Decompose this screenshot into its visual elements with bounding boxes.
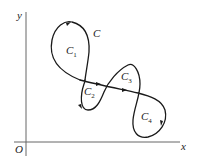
arrow-icon <box>66 22 71 26</box>
arrow-icon <box>122 88 127 92</box>
curve-label-c: C <box>93 27 101 39</box>
arrow-icon <box>78 104 82 109</box>
region-label-c1: C1 <box>66 44 77 59</box>
x-axis-label: x <box>180 140 186 152</box>
closed-curve-diagram: y x O C C1 C2 C3 <box>0 0 198 159</box>
y-axis-label: y <box>16 9 22 21</box>
region-label-c3: C3 <box>121 70 132 85</box>
region-label-c2: C2 <box>84 85 95 100</box>
origin-label: O <box>15 143 23 155</box>
region-label-c4: C4 <box>141 110 152 125</box>
